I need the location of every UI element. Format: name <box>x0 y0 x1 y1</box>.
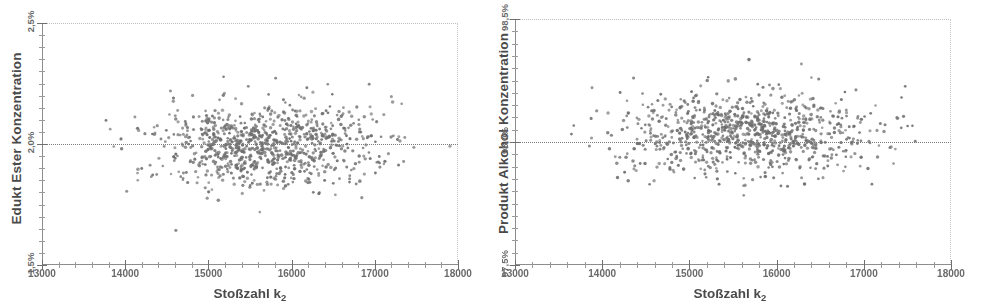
x-axis-label-left-text: Stoßzahl k <box>214 286 282 301</box>
x-axis-label-right-sub: 2 <box>761 292 766 303</box>
x-tick-label-left-4: 17000 <box>361 268 389 279</box>
x-tick-label-right-1: 14000 <box>588 268 616 279</box>
chart-panel-edukt-ester: Edukt Ester Konzentration 2,5% 2,0% 1,5%… <box>0 0 490 305</box>
y-tick-label-right-1: 98,0% <box>499 124 510 158</box>
x-tick-label-right-4: 17000 <box>850 268 878 279</box>
x-axis-label-right: Stoßzahl k2 <box>694 286 767 301</box>
plot-area-left <box>42 23 458 265</box>
x-tick-label-left-1: 14000 <box>111 268 139 279</box>
x-tick-label-right-3: 16000 <box>763 268 791 279</box>
chart-panel-produkt-alkohol: Produkt Alkohol Konzentration 98,5% 98,0… <box>490 0 981 305</box>
x-tick-label-right-5: 18000 <box>937 268 965 279</box>
y-tick-label-right-2: 98,5% <box>499 1 510 35</box>
x-tick-label-right-0: 13000 <box>501 268 529 279</box>
x-tick-label-left-0: 13000 <box>28 268 56 279</box>
x-axis-label-left-sub: 2 <box>281 292 286 303</box>
reference-line-left <box>42 144 458 145</box>
y-axis-label-left: Edukt Ester Konzentration <box>9 34 24 244</box>
reference-line-right <box>515 142 951 143</box>
scatter-figure-pair: Edukt Ester Konzentration 2,5% 2,0% 1,5%… <box>0 0 981 305</box>
x-axis-label-left: Stoßzahl k2 <box>214 286 287 301</box>
x-tick-label-left-2: 15000 <box>194 268 222 279</box>
x-tick-label-left-3: 16000 <box>278 268 306 279</box>
x-axis-label-right-text: Stoßzahl k <box>694 286 762 301</box>
x-tick-label-right-2: 15000 <box>675 268 703 279</box>
y-tick-label-left-1: 2,0% <box>25 126 36 160</box>
x-tick-label-left-5: 18000 <box>444 268 472 279</box>
y-tick-label-left-2: 2,5% <box>25 5 36 39</box>
plot-area-right <box>515 19 951 265</box>
